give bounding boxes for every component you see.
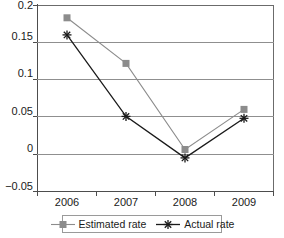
data-point-actual-2008: [181, 153, 190, 162]
series-estimated-rate: [64, 14, 248, 153]
x-tick-label-2009: 2009: [232, 196, 256, 208]
data-point-estimated-2009: [241, 106, 248, 113]
data-point-estimated-2008: [182, 146, 189, 153]
chart-legend: Estimated rate Actual rate: [62, 215, 222, 233]
data-point-actual-2007: [122, 112, 131, 121]
series-line-actual-rate: [67, 35, 244, 158]
legend-marker-square-icon: [50, 219, 76, 230]
series-line-estimated-rate: [67, 18, 244, 150]
x-tick-mark: [155, 191, 156, 196]
data-point-estimated-2007: [123, 60, 130, 67]
x-tick-label-2006: 2006: [55, 196, 79, 208]
x-tick-mark: [37, 191, 38, 196]
x-tick-mark: [96, 191, 97, 196]
legend-marker-star-icon: [155, 219, 181, 230]
legend-label-estimated-rate: Estimated rate: [79, 219, 147, 230]
data-point-estimated-2006: [64, 14, 71, 21]
data-point-actual-2006: [63, 30, 72, 39]
x-tick-mark: [214, 191, 215, 196]
legend-label-actual-rate: Actual rate: [184, 219, 234, 230]
legend-item-actual-rate: Actual rate: [155, 219, 234, 230]
legend-item-estimated-rate: Estimated rate: [50, 219, 147, 230]
series-actual-rate: [63, 30, 249, 162]
x-tick-label-2007: 2007: [114, 196, 138, 208]
data-point-actual-2009: [240, 114, 249, 123]
x-tick-mark: [273, 191, 274, 196]
line-chart: 0.2 0.15 0.1 0.05 0 −0.05: [0, 0, 284, 238]
x-tick-label-2008: 2008: [173, 196, 197, 208]
